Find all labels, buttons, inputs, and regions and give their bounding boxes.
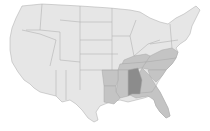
state-arkansas[interactable] [102, 70, 118, 86]
us-map [0, 0, 210, 131]
